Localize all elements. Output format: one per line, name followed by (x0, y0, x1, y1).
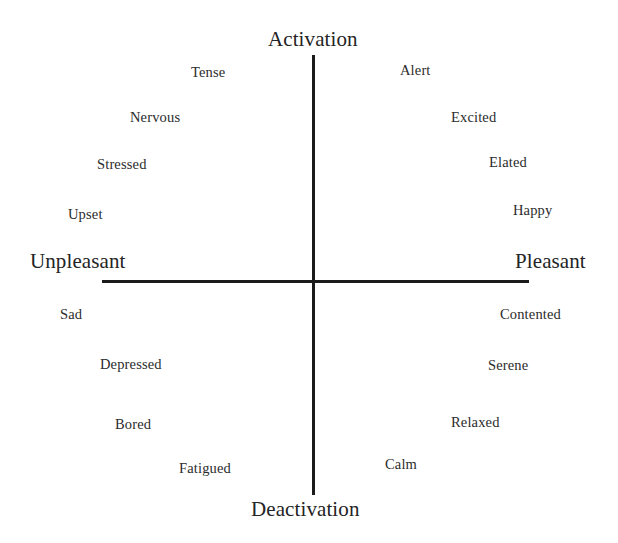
emotion-term-depressed: Depressed (100, 357, 162, 372)
emotion-term-elated: Elated (489, 155, 527, 170)
emotion-term-sad: Sad (60, 307, 82, 322)
emotion-term-happy: Happy (513, 203, 552, 218)
emotion-term-alert: Alert (400, 63, 431, 78)
axis-label-deactivation: Deactivation (251, 499, 360, 520)
emotion-term-upset: Upset (68, 207, 103, 222)
emotion-term-serene: Serene (488, 358, 528, 373)
emotion-term-relaxed: Relaxed (451, 415, 500, 430)
emotion-term-calm: Calm (385, 457, 417, 472)
emotion-term-tense: Tense (191, 65, 225, 80)
vertical-axis-line (312, 55, 315, 495)
circumplex-affect-diagram: Activation Deactivation Unpleasant Pleas… (0, 0, 618, 543)
emotion-term-contented: Contented (500, 307, 561, 322)
axis-label-unpleasant: Unpleasant (30, 251, 125, 272)
emotion-term-nervous: Nervous (130, 110, 180, 125)
horizontal-axis-line (102, 280, 529, 283)
emotion-term-bored: Bored (115, 417, 151, 432)
axis-label-activation: Activation (268, 29, 358, 50)
axis-label-pleasant: Pleasant (515, 251, 586, 272)
emotion-term-stressed: Stressed (97, 157, 147, 172)
emotion-term-fatigued: Fatigued (179, 461, 231, 476)
emotion-term-excited: Excited (451, 110, 496, 125)
